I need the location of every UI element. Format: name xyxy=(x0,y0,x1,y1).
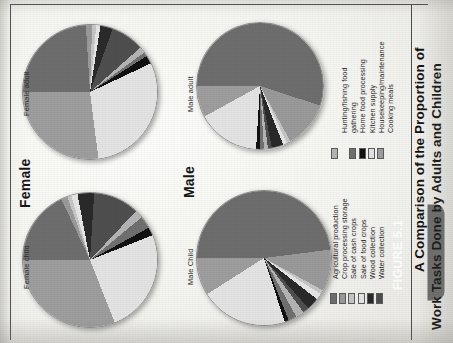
figure-number-label: FIGURE 5.1 xyxy=(391,220,405,290)
figure-frame xyxy=(10,4,428,340)
figure-caption-line-2: Work Tasks Done by Adults and Children xyxy=(429,63,444,330)
figure-frame-edge xyxy=(411,4,412,340)
scanned-page: Female adult Female child Male adult Mal… xyxy=(0,0,453,343)
